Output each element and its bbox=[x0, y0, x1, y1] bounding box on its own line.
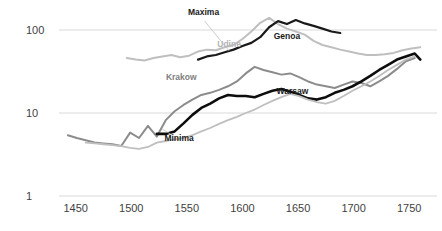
chart-container: MaximaUdineGenoaKrakowWarsawMinima 10010… bbox=[0, 0, 442, 231]
series-label-krakow: Krakow bbox=[166, 72, 197, 82]
series-label-maxima: Maxima bbox=[188, 7, 219, 17]
x-tick-label-1600: 1600 bbox=[230, 202, 254, 214]
y-tick-label-100: 100 bbox=[26, 24, 44, 36]
series-line-krakow bbox=[68, 58, 415, 146]
y-axis-labels: 100101 bbox=[26, 24, 44, 202]
x-tick-label-1500: 1500 bbox=[119, 202, 143, 214]
line-chart-svg: MaximaUdineGenoaKrakowWarsawMinima 10010… bbox=[0, 0, 442, 231]
series-label-minima: Minima bbox=[164, 133, 194, 143]
y-tick-label-10: 10 bbox=[26, 107, 38, 119]
x-tick-label-1550: 1550 bbox=[175, 202, 199, 214]
series-group bbox=[68, 18, 420, 149]
series-label-warsaw: Warsaw bbox=[277, 86, 309, 96]
x-tick-label-1650: 1650 bbox=[286, 202, 310, 214]
y-tick-label-1: 1 bbox=[26, 190, 32, 202]
series-label-udine: Udine bbox=[217, 39, 241, 49]
x-axis-labels: 1450150015501600165017001750 bbox=[63, 202, 421, 214]
x-tick-label-1450: 1450 bbox=[63, 202, 87, 214]
series-label-genoa: Genoa bbox=[274, 31, 301, 41]
x-tick-label-1700: 1700 bbox=[341, 202, 365, 214]
x-tick-label-1750: 1750 bbox=[397, 202, 421, 214]
